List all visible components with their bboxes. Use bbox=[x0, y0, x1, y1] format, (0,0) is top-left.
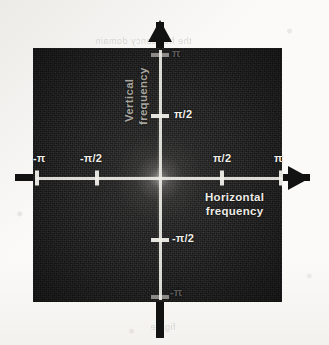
tick-label-h-neg-pi: -π bbox=[33, 152, 46, 164]
vertical-axis-caption-line2: frequency bbox=[136, 67, 150, 125]
tick-label-v-neg-half-pi: -π/2 bbox=[172, 232, 194, 244]
vertical-axis-caption-second: frequency bbox=[136, 67, 150, 125]
plate-vignette bbox=[33, 48, 282, 302]
horizontal-axis-caption-line2: frequency bbox=[205, 204, 264, 218]
horizontal-axis-caption-line1: Horizontal bbox=[205, 190, 264, 204]
vertical-axis-caption: Vertical bbox=[122, 79, 136, 122]
tick-label-v-half-pi: π/2 bbox=[174, 108, 192, 120]
vertical-axis-caption-line1: Vertical bbox=[122, 79, 136, 122]
tick-v-half-pi bbox=[151, 114, 169, 118]
figure-root: the frequency domain figure -π -π/2 π/2 … bbox=[0, 0, 329, 345]
tick-label-v-neg-pi: -π bbox=[170, 286, 183, 298]
horizontal-axis-caption: Horizontal frequency bbox=[205, 190, 264, 218]
vertical-axis-arrowhead-icon bbox=[148, 20, 172, 42]
ghost-text-top: the frequency domain bbox=[95, 36, 192, 46]
tick-h-neg-half-pi bbox=[95, 171, 99, 186]
tick-v-pi bbox=[151, 53, 169, 57]
tick-h-half-pi bbox=[220, 171, 224, 186]
tick-h-neg-pi bbox=[35, 171, 39, 186]
tick-label-h-pi: π bbox=[274, 152, 283, 164]
tick-label-h-neg-half-pi: -π/2 bbox=[80, 152, 102, 164]
tick-label-h-half-pi: π/2 bbox=[213, 152, 231, 164]
tick-v-neg-half-pi bbox=[151, 238, 169, 242]
tick-label-v-pi: π bbox=[172, 47, 181, 59]
tick-v-neg-pi bbox=[151, 295, 169, 299]
spectrum-image-plate bbox=[33, 48, 282, 302]
vertical-axis-line bbox=[159, 50, 162, 300]
tick-h-pi bbox=[279, 171, 283, 186]
horizontal-axis-arrowhead-icon bbox=[288, 166, 310, 190]
